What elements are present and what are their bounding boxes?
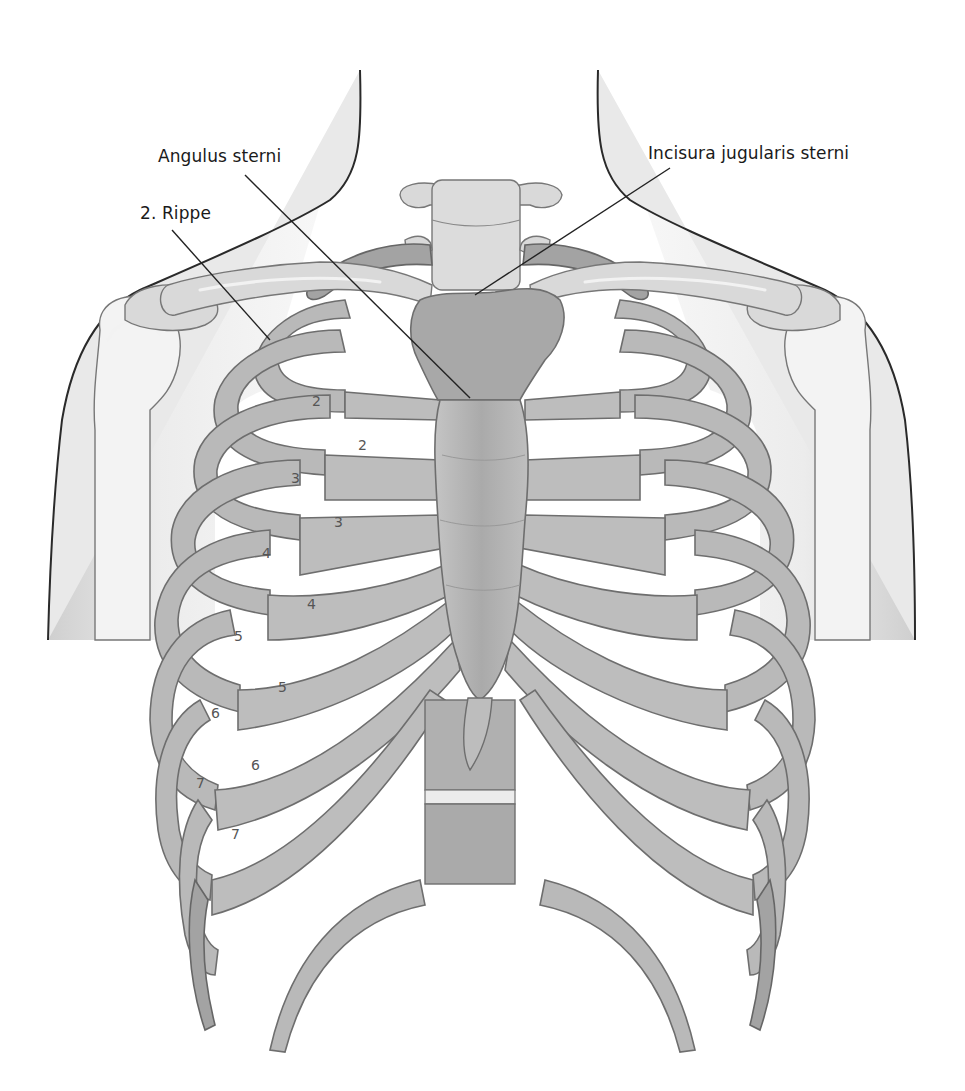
label-angulus-sterni: Angulus sterni xyxy=(158,146,281,166)
rib-number-7: 7 xyxy=(196,775,205,791)
manubrium xyxy=(411,289,564,400)
cervical-vertebra xyxy=(400,180,562,290)
intercostal-number-7: 7 xyxy=(231,826,240,842)
intercostal-number-2: 2 xyxy=(358,437,367,453)
intercostal-number-4: 4 xyxy=(307,596,316,612)
costal-arch xyxy=(270,880,695,1052)
rib-number-2: 2 xyxy=(312,393,321,409)
intercostal-number-6: 6 xyxy=(251,757,260,773)
rib-number-4: 4 xyxy=(262,545,271,561)
label-incisura-jugularis-sterni: Incisura jugularis sterni xyxy=(648,143,849,163)
thorax-illustration xyxy=(0,0,965,1091)
intercostal-number-3: 3 xyxy=(334,514,343,530)
label-2-rippe: 2. Rippe xyxy=(140,203,211,223)
intercostal-number-5: 5 xyxy=(278,679,287,695)
rib-number-3: 3 xyxy=(291,470,300,486)
rib-number-5: 5 xyxy=(234,628,243,644)
rib-number-6: 6 xyxy=(211,705,220,721)
